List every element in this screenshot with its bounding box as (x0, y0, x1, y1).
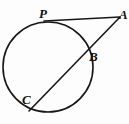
point-label-c: C (22, 93, 31, 106)
geometry-canvas (0, 0, 129, 124)
point-label-p: P (39, 7, 47, 20)
geometry-figure: P A B C (0, 0, 129, 124)
tangent-line-PA (44, 17, 120, 21)
circle-shape (3, 22, 93, 112)
point-label-b: B (89, 50, 98, 63)
point-label-a: A (119, 8, 128, 21)
